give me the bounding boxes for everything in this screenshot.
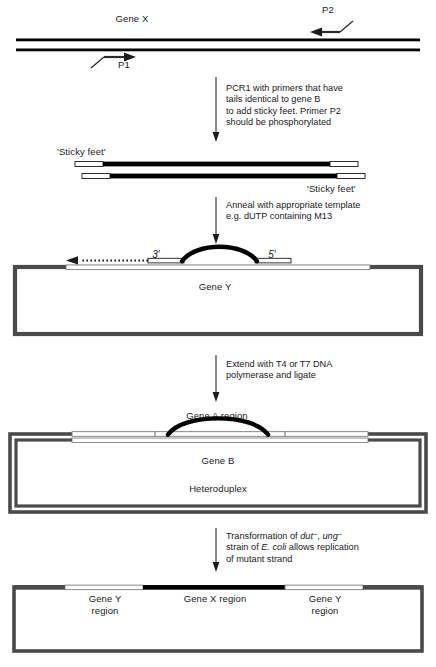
step3-description: Extend with T4 or T7 DNA polymerase and … — [226, 359, 332, 382]
panel3-gene-y-label: Gene Y — [199, 281, 232, 293]
sticky-foot-upper-left — [75, 162, 103, 167]
step1-description: PCR1 with primers that have tails identi… — [226, 83, 343, 129]
new-strand-upper — [72, 432, 368, 437]
panel1-dna-duplex — [0, 18, 436, 80]
loop-out-arch — [182, 247, 257, 261]
panel5-gene-y-left-label: Gene Yregion — [89, 593, 122, 616]
panel5-gene-x-region-label: Gene X region — [184, 593, 247, 605]
step4-arrow — [211, 528, 225, 574]
template-strand-lower — [72, 438, 368, 442]
template-circle-box — [15, 267, 421, 334]
step4-description: Transformation of dut−, ung− strain of E… — [226, 531, 359, 565]
primer-p2-arrow — [310, 21, 353, 36]
strand-lower — [82, 174, 365, 179]
panel4-gene-b-label: Gene B — [202, 455, 235, 467]
sticky-foot-upper-right — [330, 162, 358, 167]
sticky-foot-lower-left — [82, 174, 110, 179]
panel4-heteroduplex-box — [0, 426, 436, 520]
primer-bar-right — [255, 258, 291, 263]
heteroduplex-outer-box — [10, 434, 426, 512]
panel2-sticky-feet-bottom-label: 'Sticky feet' — [307, 183, 356, 195]
diagram-canvas: Gene X P2 P1 PCR1 with primers that have… — [0, 0, 436, 667]
step3-arrow — [211, 355, 225, 403]
panel4-heteroduplex-label: Heteroduplex — [189, 483, 247, 495]
panel3-template-box — [0, 258, 436, 338]
step1-arrow — [211, 77, 225, 143]
sticky-foot-lower-right — [337, 174, 365, 179]
step2-description: Anneal with appropriate template e.g. dU… — [226, 200, 360, 223]
extension-dotted-arrow — [66, 256, 148, 264]
panel5-gene-y-right-label: Gene Yregion — [309, 593, 342, 616]
strand-top — [16, 39, 420, 42]
segment-gene-y-left — [65, 585, 143, 590]
strand-lower-body — [110, 174, 337, 179]
segment-gene-y-right — [285, 585, 363, 590]
heteroduplex-inner-box — [16, 440, 420, 506]
segment-flank-left — [14, 585, 65, 590]
primer-p1-label: P1 — [118, 59, 130, 71]
strand-upper — [75, 162, 358, 167]
primer-p2-label: P2 — [322, 4, 334, 16]
panel2-sticky-feet-top-label: 'Sticky feet' — [57, 146, 106, 158]
strand-bottom — [16, 49, 420, 52]
strand-upper-body — [103, 162, 330, 167]
panel2-sticky-feet-duplex — [0, 160, 436, 190]
primer-bar-left — [148, 258, 184, 263]
step2-arrow — [211, 197, 225, 245]
template-top-strand — [66, 265, 370, 270]
segment-flank-right — [363, 585, 422, 590]
segment-gene-x-region — [143, 585, 285, 590]
